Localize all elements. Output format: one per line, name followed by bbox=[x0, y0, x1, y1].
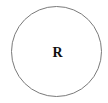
node-label: R bbox=[52, 45, 63, 60]
diagram-canvas: R bbox=[0, 0, 108, 103]
